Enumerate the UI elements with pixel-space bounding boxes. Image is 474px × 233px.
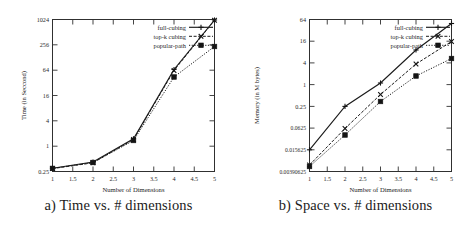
x-tick-label: 2 (343, 175, 346, 182)
panel-caption-space: b) Space vs. # dimensions (237, 197, 474, 214)
x-tick-label: 4 (172, 175, 175, 182)
y-tick-label: 256 (40, 41, 49, 48)
y-tick-label: 16 (300, 37, 306, 44)
x-tick-label: 3.5 (150, 175, 158, 182)
x-axis-ticks (310, 20, 452, 172)
x-tick-label: 1.5 (69, 175, 77, 182)
y-tick-label: 0.00390625 (279, 169, 306, 175)
x-tick-label: 5 (213, 175, 216, 182)
square-marker (436, 43, 441, 48)
y-axis-title: Memory (in M bytes) (253, 67, 261, 124)
square-marker (212, 44, 217, 49)
time-chart-svg: 1024 256 64 16 4 1 0.25 (0, 0, 237, 197)
y-axis-ticks (53, 20, 215, 172)
chart-panel-time: 1024 256 64 16 4 1 0.25 (0, 0, 237, 233)
series-full-cubing (307, 21, 454, 153)
figure-row: 1024 256 64 16 4 1 0.25 (0, 0, 474, 233)
y-tick-label: 0.015625 (285, 147, 306, 153)
plot-frame (310, 20, 452, 172)
panel-caption-time: a) Time vs. # dimensions (0, 197, 237, 214)
memory-chart-svg: 64 16 4 1 0.25 0.0625 0.015625 0.0039062… (237, 0, 474, 197)
legend-label-popular-path: popular-path (390, 42, 423, 49)
y-tick-label: 1 (303, 81, 306, 88)
x-tick-label: 1 (308, 175, 311, 182)
square-marker (378, 99, 383, 104)
y-tick-label: 1024 (37, 16, 49, 23)
square-marker (172, 75, 177, 80)
x-axis-title: Number of Dimensions (103, 186, 165, 193)
x-axis-ticks (53, 20, 215, 172)
y-tick-label: 16 (43, 92, 49, 99)
series-top-k-cubing (50, 18, 217, 171)
plus-marker (198, 25, 203, 30)
legend-label-full-cubing: full-cubing (158, 24, 187, 31)
legend-label-top-k-cubing: top-k cubing (391, 33, 424, 40)
y-tick-label: 4 (46, 117, 49, 124)
cross-marker (343, 126, 348, 131)
y-tick-label: 64 (43, 66, 49, 73)
plus-marker (435, 25, 440, 30)
y-tick-label: 0.25 (38, 168, 49, 175)
y-tick-label: 0.0625 (291, 125, 307, 131)
x-tick-label: 3 (379, 175, 382, 182)
square-marker (449, 56, 454, 61)
x-tick-label: 5 (450, 175, 453, 182)
x-tick-label: 1 (51, 175, 54, 182)
y-tick-label: 64 (300, 16, 306, 23)
x-tick-label: 4.5 (190, 175, 198, 182)
x-tick-label: 2.5 (109, 175, 117, 182)
plot-frame (53, 20, 215, 172)
y-axis-ticks (310, 20, 452, 172)
chart-legend: full-cubing top-k cubing popular-path (153, 24, 213, 49)
square-marker (343, 133, 348, 138)
y-tick-label: 0.25 (295, 103, 306, 110)
legend-label-top-k-cubing: top-k cubing (154, 33, 187, 40)
chart-legend: full-cubing top-k cubing popular-path (390, 24, 450, 49)
series-full-cubing (50, 17, 217, 170)
series-popular-path (50, 44, 217, 171)
legend-label-full-cubing: full-cubing (395, 24, 424, 31)
square-marker (199, 43, 204, 48)
legend-label-popular-path: popular-path (153, 42, 186, 49)
x-tick-label: 3.5 (394, 175, 402, 182)
y-tick-label: 1 (46, 142, 49, 149)
x-tick-label: 2 (91, 175, 94, 182)
square-marker (414, 74, 419, 79)
y-axis-title: Time (in Seccond) (20, 71, 28, 120)
series-popular-path (307, 56, 454, 169)
chart-panel-memory: 64 16 4 1 0.25 0.0625 0.015625 0.0039062… (237, 0, 474, 233)
cross-marker (414, 62, 419, 67)
x-tick-label: 4.5 (430, 175, 438, 182)
x-axis-title: Number of Dimensions (350, 186, 412, 193)
x-tick-label: 2.5 (359, 175, 367, 182)
x-tick-label: 1.5 (323, 175, 331, 182)
x-tick-label: 4 (414, 175, 417, 182)
x-tick-label: 3 (132, 175, 135, 182)
cross-marker (378, 92, 383, 97)
y-tick-label: 4 (303, 59, 306, 66)
